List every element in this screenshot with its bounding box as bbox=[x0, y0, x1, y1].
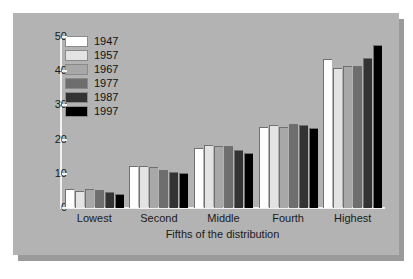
bar-1997-middle bbox=[244, 153, 253, 208]
bar-group-middle bbox=[191, 37, 256, 208]
legend-label: 1967 bbox=[94, 64, 118, 75]
bar-1997-fourth bbox=[309, 128, 318, 208]
bar-1957-lowest bbox=[75, 191, 84, 208]
bar-1977-highest bbox=[353, 66, 362, 208]
bar-1987-fourth bbox=[299, 125, 308, 208]
x-label-lowest: Lowest bbox=[62, 212, 127, 225]
bar-1997-highest bbox=[373, 45, 382, 208]
chart-figure: 01020304050 LowestSecondMiddleFourthHigh… bbox=[0, 0, 413, 279]
y-tick-mark bbox=[62, 173, 67, 175]
bar-1987-second bbox=[169, 172, 178, 208]
bar-1947-lowest bbox=[65, 189, 74, 208]
legend-item-1987: 1987 bbox=[65, 90, 118, 104]
bar-1947-fourth bbox=[259, 127, 268, 208]
bar-1997-lowest bbox=[115, 194, 124, 208]
legend-item-1997: 1997 bbox=[65, 104, 118, 118]
bar-1987-highest bbox=[363, 58, 372, 208]
bar-1987-lowest bbox=[105, 192, 114, 208]
bar-1977-middle bbox=[224, 146, 233, 208]
x-label-second: Second bbox=[127, 212, 192, 225]
legend-swatch-icon bbox=[65, 78, 88, 89]
legend-swatch-icon bbox=[65, 36, 88, 47]
bar-1957-second bbox=[139, 166, 148, 208]
legend-label: 1997 bbox=[94, 106, 118, 117]
legend-label: 1947 bbox=[94, 36, 118, 47]
x-label-middle: Middle bbox=[191, 212, 256, 225]
legend-label: 1987 bbox=[94, 92, 118, 103]
bar-1967-middle bbox=[214, 146, 223, 208]
bar-1947-highest bbox=[323, 59, 332, 208]
legend-item-1977: 1977 bbox=[65, 76, 118, 90]
legend-item-1967: 1967 bbox=[65, 62, 118, 76]
y-tick-mark bbox=[62, 104, 67, 106]
bar-group-fourth bbox=[256, 37, 321, 208]
x-label-highest: Highest bbox=[320, 212, 385, 225]
bar-1967-second bbox=[149, 167, 158, 208]
bar-group-second bbox=[127, 37, 192, 208]
y-tick-mark bbox=[62, 207, 67, 209]
bar-1977-fourth bbox=[289, 124, 298, 208]
bar-1977-second bbox=[159, 170, 168, 208]
legend-label: 1977 bbox=[94, 78, 118, 89]
chart-legend: 194719571967197719871997 bbox=[65, 34, 118, 118]
legend-swatch-icon bbox=[65, 92, 88, 103]
bar-1987-middle bbox=[234, 150, 243, 208]
bar-1967-highest bbox=[343, 66, 352, 208]
bar-1947-middle bbox=[194, 148, 203, 208]
legend-swatch-icon bbox=[65, 106, 88, 117]
bar-1957-fourth bbox=[269, 125, 278, 208]
legend-swatch-icon bbox=[65, 50, 88, 61]
bar-1957-middle bbox=[204, 145, 213, 208]
bar-1967-fourth bbox=[279, 127, 288, 208]
bar-group-highest bbox=[320, 37, 385, 208]
legend-item-1957: 1957 bbox=[65, 48, 118, 62]
bar-1997-second bbox=[179, 173, 188, 208]
bar-1977-lowest bbox=[95, 190, 104, 208]
bar-1947-second bbox=[129, 166, 138, 208]
y-tick-mark bbox=[62, 70, 67, 72]
bar-1957-highest bbox=[333, 68, 342, 208]
y-tick-mark bbox=[62, 139, 67, 141]
x-axis-title: Fifths of the distribution bbox=[60, 228, 385, 240]
y-tick-mark bbox=[62, 36, 67, 38]
legend-swatch-icon bbox=[65, 64, 88, 75]
x-label-fourth: Fourth bbox=[256, 212, 321, 225]
legend-item-1947: 1947 bbox=[65, 34, 118, 48]
bar-1967-lowest bbox=[85, 189, 94, 208]
legend-label: 1957 bbox=[94, 50, 118, 61]
